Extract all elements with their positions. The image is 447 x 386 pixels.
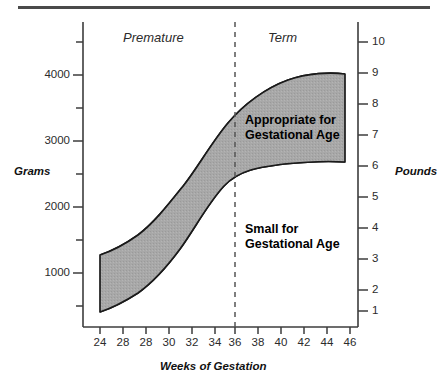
- y2-tick-label-8: 8: [372, 97, 378, 111]
- fetal-growth-chart-figure: 4000 3000 2000 1000 Grams 10 9 8 7 6 5 4…: [0, 0, 447, 386]
- x-axis-title: Weeks of Gestation: [160, 360, 267, 374]
- region-label-term: Term: [268, 30, 297, 45]
- y2-tick-label-3: 3: [372, 252, 378, 266]
- bottom-axis-ticks: [100, 327, 350, 334]
- x-tick-label-2: 28: [134, 336, 158, 350]
- y2-tick-label-10: 10: [372, 35, 385, 49]
- x-tick-label-4: 32: [180, 336, 204, 350]
- y-tick-label-3000: 3000: [38, 134, 70, 148]
- y2-tick-label-6: 6: [372, 159, 378, 173]
- y2-axis-title: Pounds: [395, 165, 437, 179]
- chart-plot-area: [0, 0, 447, 386]
- x-tick-label-0: 24: [88, 336, 112, 350]
- x-tick-label-7: 38: [246, 336, 270, 350]
- left-axis-ticks: [73, 42, 83, 306]
- y2-tick-label-9: 9: [372, 66, 378, 80]
- x-tick-label-8: 40: [269, 336, 293, 350]
- band-label-line2: Gestational Age: [245, 128, 340, 143]
- x-tick-label-9: 42: [292, 336, 316, 350]
- x-tick-label-10: 44: [315, 336, 339, 350]
- y2-tick-label-7: 7: [372, 128, 378, 142]
- right-axis-ticks: [358, 42, 368, 311]
- y2-tick-label-2: 2: [372, 283, 378, 297]
- region-label-premature: Premature: [123, 30, 184, 45]
- y2-tick-label-1: 1: [372, 304, 378, 318]
- y-tick-label-4000: 4000: [38, 68, 70, 82]
- below-band-label-line1: Small for: [245, 222, 299, 237]
- x-tick-label-11: 46: [338, 336, 362, 350]
- x-tick-label-3: 30: [157, 336, 181, 350]
- y2-tick-label-4: 4: [372, 221, 378, 235]
- below-band-label-line2: Gestational Age: [245, 237, 340, 252]
- y-axis-title: Grams: [14, 165, 50, 179]
- band-label-line1: Appropriate for: [245, 113, 336, 128]
- x-tick-label-1: 28: [111, 336, 135, 350]
- y-tick-label-1000: 1000: [38, 266, 70, 280]
- y2-tick-label-5: 5: [372, 190, 378, 204]
- x-tick-label-6: 36: [223, 336, 247, 350]
- y-tick-label-2000: 2000: [38, 200, 70, 214]
